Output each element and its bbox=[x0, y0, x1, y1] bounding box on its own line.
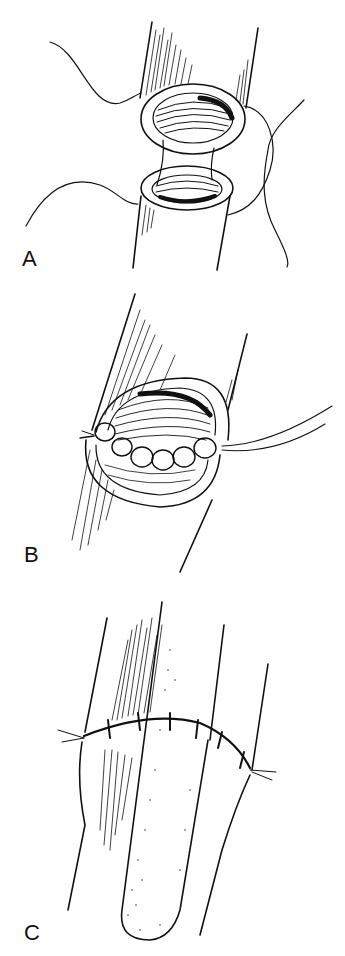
back-wall-suture-illustration bbox=[0, 290, 345, 580]
panel-label-b: B bbox=[24, 542, 39, 568]
completed-anastomosis-illustration bbox=[0, 580, 345, 956]
panel-a: A bbox=[0, 0, 345, 290]
panel-label-c: C bbox=[24, 920, 40, 946]
panel-label-a: A bbox=[22, 246, 37, 272]
vessel-approximation-illustration bbox=[0, 0, 345, 290]
panel-b: B bbox=[0, 290, 345, 580]
panel-c: C bbox=[0, 580, 345, 956]
